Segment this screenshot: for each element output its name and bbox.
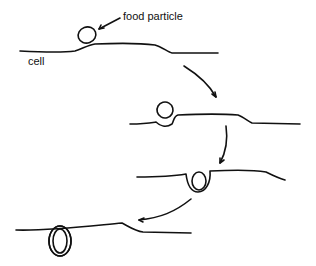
food-particle-stage-3 <box>192 172 206 190</box>
food-particle-stage-2 <box>155 100 175 120</box>
arrow-stage-2-to-3 <box>220 126 227 163</box>
cell-label: cell <box>28 55 45 67</box>
cell-membrane-stage-2 <box>130 114 300 126</box>
cell-membrane-stage-4 <box>16 223 191 233</box>
label-pointer-arrow <box>99 18 120 29</box>
diagram-drawing <box>0 0 316 266</box>
food-particle-stage-4 <box>53 229 67 253</box>
cell-membrane-stage-3 <box>137 170 285 192</box>
food-particle-label: food particle <box>123 10 183 22</box>
phagocytosis-diagram: food particle cell <box>0 0 316 266</box>
cell-membrane-stage-1 <box>20 43 218 53</box>
food-particle-stage-1 <box>76 24 98 45</box>
arrow-stage-3-to-4 <box>139 199 191 220</box>
arrow-stage-1-to-2 <box>184 66 216 97</box>
